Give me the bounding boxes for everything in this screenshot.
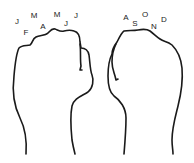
right-fist-outline [108, 29, 182, 154]
month-label-nov: N [151, 23, 157, 31]
month-label-sep: S [132, 20, 137, 28]
month-label-may: M [54, 11, 61, 19]
knuckle-mnemonic-diagram: J F M A M J J A S O N D [0, 0, 194, 163]
month-label-feb: F [24, 29, 29, 37]
month-label-aug: A [123, 14, 128, 22]
month-label-jul: J [74, 12, 78, 20]
month-label-jan: J [15, 18, 19, 26]
month-label-oct: O [142, 11, 148, 19]
month-label-jun: J [64, 20, 68, 28]
fists-drawing [0, 0, 194, 163]
month-label-mar: M [31, 12, 38, 20]
month-label-apr: A [40, 23, 45, 31]
month-label-dec: D [161, 16, 167, 24]
